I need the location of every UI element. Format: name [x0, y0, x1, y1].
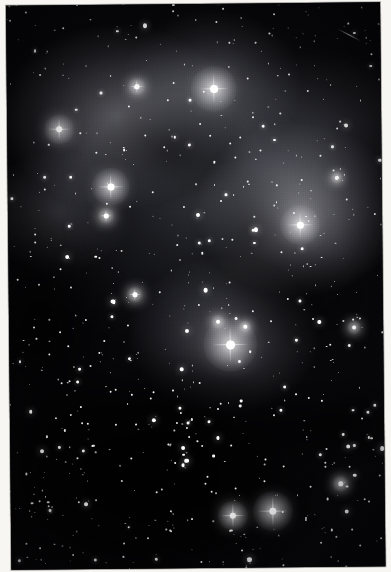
- star-point: [76, 380, 79, 383]
- star-point: [30, 256, 31, 257]
- star-point: [79, 132, 81, 134]
- star-point: [77, 458, 79, 460]
- dark-dust-lane-layer: [6, 2, 385, 570]
- star-point: [197, 440, 199, 442]
- star-point: [335, 243, 337, 245]
- star-point: [13, 174, 14, 175]
- star-point: [126, 297, 128, 299]
- star-point: [69, 258, 70, 259]
- star-point: [349, 466, 351, 468]
- star-point: [76, 497, 77, 498]
- star-point: [42, 367, 43, 368]
- star-point: [62, 545, 64, 547]
- star-point: [346, 445, 350, 449]
- star-northwest: [56, 126, 62, 132]
- star-point: [29, 410, 32, 413]
- star-point: [357, 500, 358, 501]
- star-point: [198, 241, 201, 244]
- star-point: [121, 250, 123, 252]
- star-point: [176, 245, 178, 247]
- star-point: [130, 359, 131, 360]
- star-point: [376, 541, 377, 542]
- star-point: [320, 155, 322, 157]
- star-point: [67, 382, 69, 384]
- star-point: [155, 415, 156, 416]
- star-point: [114, 388, 116, 390]
- star-point: [185, 427, 187, 429]
- star-point: [277, 75, 279, 77]
- star-point: [33, 493, 35, 495]
- star-point: [133, 562, 134, 563]
- star-point: [273, 205, 274, 206]
- star-bottom-right-halo: [333, 476, 349, 492]
- star-point: [315, 284, 316, 285]
- star-point: [134, 490, 135, 491]
- star-point: [65, 461, 67, 463]
- star-point: [285, 90, 286, 91]
- star-point: [212, 520, 213, 521]
- star-point: [179, 412, 181, 414]
- star-point: [252, 229, 255, 232]
- star-point: [183, 206, 185, 208]
- star-point: [319, 453, 322, 456]
- star-point: [18, 40, 19, 41]
- star-point: [163, 146, 165, 148]
- star-point: [347, 23, 349, 25]
- star-point: [123, 147, 124, 148]
- star-point: [188, 282, 189, 283]
- star-point: [228, 402, 230, 404]
- star-point: [119, 465, 121, 467]
- star-point: [50, 239, 51, 240]
- star-point: [248, 442, 249, 443]
- star-point: [269, 32, 271, 34]
- star-central-bright-halo: [203, 317, 258, 372]
- star-point: [117, 271, 118, 272]
- star-point: [330, 84, 332, 86]
- star-point: [29, 384, 30, 385]
- star-point: [24, 11, 26, 13]
- star-point: [239, 136, 241, 138]
- star-point: [62, 515, 63, 516]
- star-point: [106, 203, 108, 205]
- star-point: [204, 212, 205, 213]
- star-point: [290, 264, 291, 265]
- star-bottom-right: [338, 481, 343, 486]
- star-point: [39, 547, 41, 549]
- star-northwest-spike-vertical: [59, 118, 60, 140]
- star-point: [216, 21, 218, 23]
- star-point: [378, 79, 380, 81]
- vignette-layer: [6, 2, 385, 570]
- star-east-mid-halo: [280, 205, 320, 245]
- star-north-central-halo: [191, 66, 237, 112]
- star-point: [348, 344, 351, 347]
- star-point: [40, 449, 45, 454]
- star-point: [135, 537, 136, 538]
- star-point: [122, 4, 123, 5]
- star-point: [54, 544, 55, 545]
- star-central-bright-spike-horizontal: [212, 344, 248, 345]
- star-point: [211, 90, 212, 91]
- star-point: [49, 340, 50, 341]
- star-point: [45, 496, 46, 497]
- star-point: [54, 30, 55, 31]
- star-point: [215, 492, 216, 493]
- star-northwest-halo: [44, 114, 74, 144]
- star-point: [36, 558, 37, 559]
- star-point: [117, 26, 118, 27]
- star-point: [28, 344, 29, 345]
- star-point: [195, 433, 196, 434]
- star-point: [68, 380, 70, 382]
- star-point: [34, 49, 37, 52]
- star-point: [305, 517, 307, 519]
- star-point: [77, 501, 79, 503]
- star-point: [301, 179, 303, 181]
- star-point: [17, 559, 20, 562]
- star-point: [170, 510, 172, 512]
- star-point: [320, 235, 321, 236]
- star-point: [375, 456, 376, 457]
- star-point: [340, 168, 341, 169]
- star-point: [369, 40, 370, 41]
- star-point: [217, 42, 218, 43]
- photographic-frame: [6, 2, 385, 570]
- star-point: [256, 455, 257, 456]
